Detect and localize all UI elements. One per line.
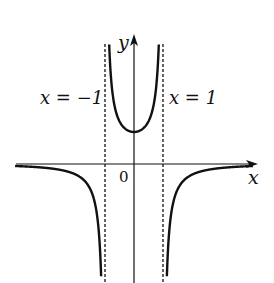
left-branch-curve <box>15 166 101 276</box>
x-axis-label: x <box>248 166 259 188</box>
y-axis-label: y <box>117 31 129 53</box>
function-graph: y x 0 x = −1 x = 1 <box>0 0 274 283</box>
right-branch-curve <box>167 166 253 276</box>
left-asymptote-label: x = −1 <box>40 87 103 108</box>
graph-canvas: y x 0 x = −1 x = 1 <box>0 0 274 283</box>
origin-label: 0 <box>119 168 129 186</box>
right-asymptote-label: x = 1 <box>169 87 217 108</box>
